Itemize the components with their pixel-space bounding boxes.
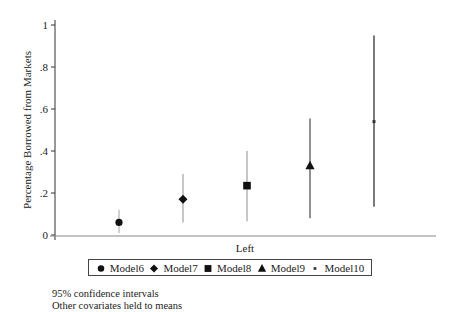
square-marker-icon — [203, 263, 213, 273]
y-tick-label: .4 — [40, 145, 49, 157]
legend-item-model9: Model9 — [257, 262, 305, 274]
legend-label: Model7 — [163, 262, 197, 274]
legend-item-model10: Model10 — [310, 262, 364, 274]
legend-item-model6: Model6 — [96, 262, 144, 274]
x-axis-title: Left — [236, 242, 254, 254]
y-tick-label: .6 — [40, 103, 49, 115]
circle-marker-icon — [96, 263, 106, 273]
legend-label: Model9 — [271, 262, 305, 274]
data-point-model7 — [179, 174, 188, 222]
chart-notes: 95% confidence intervals Other covariate… — [52, 288, 182, 312]
data-point-model6 — [115, 210, 122, 233]
note-confidence-intervals: 95% confidence intervals — [52, 288, 182, 300]
data-point-model9 — [305, 118, 314, 218]
x-small-marker-icon — [310, 263, 320, 273]
y-axis: 0.2.4.6.81 — [40, 19, 55, 241]
data-point-model8 — [243, 151, 251, 221]
y-axis-title: Percentage Borrowed from Markets — [21, 51, 33, 209]
legend-item-model8: Model8 — [203, 262, 251, 274]
legend: Model6Model7Model8Model9Model10 — [88, 259, 372, 276]
data-point-model10 — [373, 36, 376, 207]
y-tick-label: 1 — [43, 19, 49, 31]
note-covariates: Other covariates held to means — [52, 300, 182, 312]
legend-label: Model8 — [217, 262, 251, 274]
data-points — [115, 36, 375, 233]
y-tick-label: .2 — [40, 187, 48, 199]
diamond-marker-icon — [149, 263, 159, 273]
y-tick-label: .8 — [40, 61, 49, 73]
y-tick-label: 0 — [43, 229, 49, 241]
legend-label: Model10 — [324, 262, 364, 274]
triangle-marker-icon — [257, 263, 267, 273]
legend-item-model7: Model7 — [149, 262, 197, 274]
legend-label: Model6 — [110, 262, 144, 274]
